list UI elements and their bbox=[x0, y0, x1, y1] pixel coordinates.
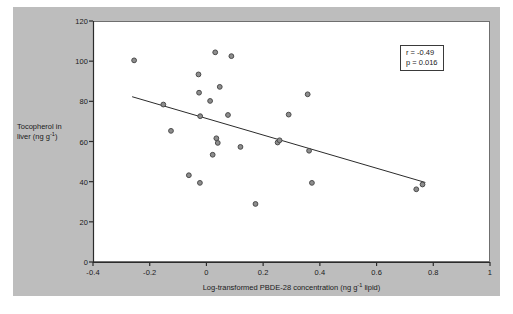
y-axis-tick-label: 100 bbox=[60, 57, 88, 66]
y-axis-title-line2-prefix: liver (ng g bbox=[17, 132, 50, 141]
p-value-label: p = 0.016 bbox=[406, 58, 438, 68]
x-axis-title-suffix: lipid) bbox=[362, 283, 380, 292]
y-axis-tick-label: 20 bbox=[60, 217, 88, 226]
y-axis-tick-label: 0 bbox=[60, 258, 88, 267]
x-axis-tick-label: 0.4 bbox=[314, 268, 325, 277]
y-axis-tick-label: 80 bbox=[60, 97, 88, 106]
statistics-annotation-box: r = -0.49 p = 0.016 bbox=[400, 45, 444, 71]
correlation-coefficient-label: r = -0.49 bbox=[406, 48, 438, 58]
x-axis-tick-label: -0.4 bbox=[86, 268, 99, 277]
x-axis-title: Log-transformed PBDE-28 concentration (n… bbox=[93, 283, 490, 292]
x-axis-title-prefix: Log-transformed PBDE-28 concentration (n… bbox=[203, 283, 358, 292]
y-axis-tick-label: 40 bbox=[60, 177, 88, 186]
x-axis-tick-label: 0 bbox=[204, 268, 208, 277]
x-axis-tick-label: 0.6 bbox=[371, 268, 382, 277]
x-axis-tick-label: 0.8 bbox=[428, 268, 439, 277]
x-axis-tick-label: -0.2 bbox=[143, 268, 156, 277]
y-axis-tick-label: 60 bbox=[60, 137, 88, 146]
y-axis-title-line2-suffix: ) bbox=[55, 132, 58, 141]
y-axis-tick-label: 120 bbox=[60, 17, 88, 26]
figure-root: Tocopherol in liver (ng g-1) Log-transfo… bbox=[0, 0, 513, 314]
x-axis-tick-label: 0.2 bbox=[258, 268, 269, 277]
x-axis-tick-label: 1 bbox=[488, 268, 492, 277]
